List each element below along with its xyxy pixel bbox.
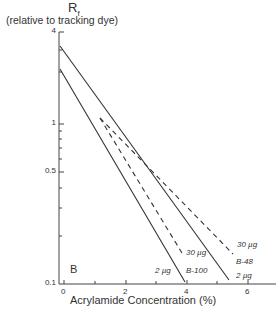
- annotation-b48-30ug: 30 µg: [237, 240, 257, 249]
- y-tick-4: 4: [36, 26, 56, 35]
- x-axis-label: Acrylamide Concentration (%): [70, 294, 216, 306]
- annotation-b48-2ug: 2 µg: [236, 271, 252, 280]
- panel-label: B: [70, 263, 77, 275]
- annotation-b100-30ug: 30 µg: [186, 248, 206, 257]
- plot-area: [0, 0, 279, 313]
- series-b100-30ug: [100, 118, 182, 253]
- x-tick-0: 0: [61, 287, 65, 296]
- series-b48-30ug: [100, 118, 233, 254]
- series-b100-2ug: [60, 69, 185, 282]
- annotation-b48: B-48: [236, 257, 253, 266]
- y-tick-0-5: 0.5: [36, 166, 56, 175]
- annotation-b100-2ug: 2 µg: [155, 266, 171, 275]
- y-tick-1: 1: [36, 118, 56, 127]
- x-tick-6: 6: [245, 287, 249, 296]
- y-tick-0-1: 0.1: [36, 278, 56, 287]
- annotation-b100: B-100: [186, 266, 207, 275]
